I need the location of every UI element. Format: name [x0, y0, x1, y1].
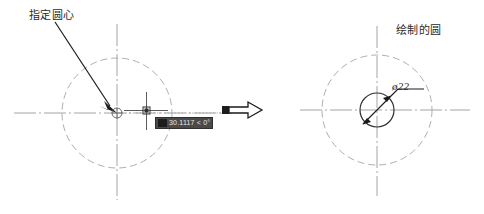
callout-leader-line [55, 22, 110, 106]
transition-block-arrow [222, 102, 262, 118]
dynamic-input-tooltip[interactable]: 30.1117 < 0° [155, 117, 213, 129]
diagram-canvas: 指定圆心 绘制的圆 ø22 30.1117 < 0° [0, 0, 484, 214]
dynamic-input-icon [158, 119, 167, 127]
label-drawn-circle: 绘制的圆 [396, 21, 442, 37]
dynamic-input-value: 30.1117 < 0° [169, 119, 210, 127]
center-osnap-marker [112, 108, 123, 119]
left-panel-group [14, 22, 232, 200]
right-panel-group [300, 26, 470, 196]
diameter-dimension-text: ø22 [392, 80, 409, 92]
label-specify-center-point: 指定圆心 [29, 6, 75, 22]
